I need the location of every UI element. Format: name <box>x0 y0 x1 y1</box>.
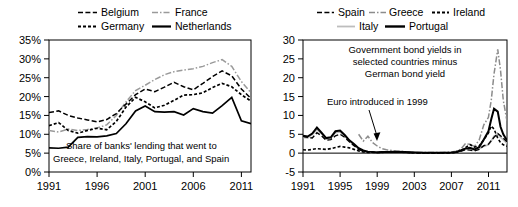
y-tick-label: 10% <box>19 128 41 140</box>
y-tick-label: 0 <box>289 147 295 159</box>
annotation-line-2: Greece, Ireland, Italy, Portugal, and Sp… <box>53 153 229 164</box>
y-tick-label: 35% <box>19 34 41 46</box>
legend-label-netherlands: Netherlands <box>175 20 232 32</box>
y-tick-label: 20 <box>283 72 295 84</box>
bond-spread-panel: Spain Greece Ireland Italy Portugal <box>259 0 518 207</box>
x-tick-label: 1991 <box>291 180 315 192</box>
x-axis-right: 1991 1995 1999 2003 2007 2011 <box>291 172 501 192</box>
legend-right: Spain Greece Ireland Italy Portugal <box>317 6 485 32</box>
euro-annotation-label: Euro introduced in 1999 <box>327 96 428 107</box>
bank-lending-chart: Belgium France Germany Netherlands <box>0 0 259 207</box>
y-tick-label: 10 <box>283 109 295 121</box>
x-tick-label: 2001 <box>133 180 157 192</box>
x-axis-left: 1991 1996 2001 2006 2011 <box>37 172 253 192</box>
y-tick-label: 20% <box>19 91 41 103</box>
y-tick-label: 30 <box>283 34 295 46</box>
bond-spread-chart: Spain Greece Ireland Italy Portugal <box>259 0 518 207</box>
annotation-line-3: German bond yield <box>365 68 445 79</box>
y-tick-label: 30% <box>19 53 41 65</box>
y-tick-label: -5 <box>285 166 295 178</box>
legend-left: Belgium France Germany Netherlands <box>78 6 232 32</box>
figure-container: Belgium France Germany Netherlands <box>0 0 518 207</box>
x-tick-label: 1996 <box>85 180 109 192</box>
y-axis-left: 35% 30% 25% 20% 15% 10% 5% 0% <box>19 34 49 178</box>
x-tick-label: 2007 <box>439 180 463 192</box>
x-tick-label: 1995 <box>328 180 352 192</box>
y-tick-group <box>44 40 49 172</box>
legend-label-germany: Germany <box>101 20 145 32</box>
bank-lending-panel: Belgium France Germany Netherlands <box>0 0 259 207</box>
y-tick-label: 0% <box>25 166 41 178</box>
y-tick-label: 25 <box>283 53 295 65</box>
x-tick-label: 1999 <box>365 180 389 192</box>
annotation-line-1: Government bond yields in <box>348 44 461 55</box>
x-tick-label: 2006 <box>181 180 205 192</box>
x-tick-label: 1991 <box>37 180 61 192</box>
x-tick-label: 2003 <box>402 180 426 192</box>
legend-label-ireland: Ireland <box>453 6 485 18</box>
legend-label-belgium: Belgium <box>101 6 139 18</box>
annotation-right: Government bond yields in selected count… <box>348 44 461 79</box>
legend-label-portugal: Portugal <box>409 20 448 32</box>
legend-label-italy: Italy <box>359 20 379 32</box>
annotation-left: Share of banks' lending that went to Gre… <box>53 140 229 165</box>
legend-label-france: France <box>175 6 208 18</box>
y-tick-label: 25% <box>19 72 41 84</box>
euro-arrow-line <box>369 110 377 136</box>
legend-label-greece: Greece <box>389 6 424 18</box>
y-tick-label: 5% <box>25 147 41 159</box>
annotation-line-2: selected countries minus <box>353 56 458 67</box>
series-line-belgium <box>49 71 251 122</box>
y-tick-label: 5 <box>289 128 295 140</box>
y-tick-label: 15% <box>19 109 41 121</box>
x-tick-label: 2011 <box>230 180 254 192</box>
x-tick-label: 2011 <box>477 180 501 192</box>
series-line-france <box>49 60 251 132</box>
series-group-left <box>49 60 251 149</box>
euro-arrow-head <box>374 132 381 141</box>
annotation-line-1: Share of banks' lending that went to <box>66 140 217 151</box>
legend-label-spain: Spain <box>338 6 365 18</box>
y-tick-label: 15 <box>283 91 295 103</box>
y-axis-right: 30 25 20 15 10 5 0 -5 <box>283 34 303 178</box>
